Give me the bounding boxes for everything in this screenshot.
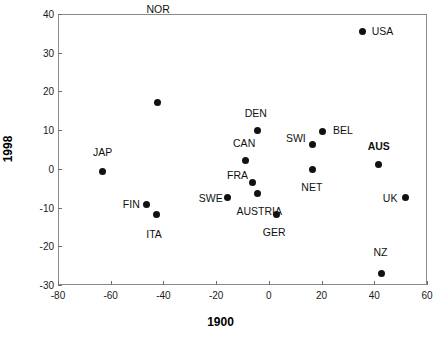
y-tick-mark xyxy=(58,130,62,131)
x-tick-label: -80 xyxy=(51,290,65,301)
x-tick-mark xyxy=(322,281,323,285)
data-point[interactable] xyxy=(402,194,409,201)
data-point[interactable] xyxy=(242,157,249,164)
data-point-label: NZ xyxy=(373,246,387,257)
y-tick-label: 0 xyxy=(24,163,54,174)
data-point-label: USA xyxy=(372,26,394,37)
x-tick-label: 0 xyxy=(266,290,272,301)
x-tick-mark xyxy=(58,281,59,285)
y-tick-mark xyxy=(58,53,62,54)
y-tick-label: 30 xyxy=(24,47,54,58)
y-tick-label: -30 xyxy=(24,280,54,291)
y-tick-label: -10 xyxy=(24,202,54,213)
y-tick-mark xyxy=(58,208,62,209)
y-tick-mark xyxy=(58,14,62,15)
data-point-label: CAN xyxy=(233,137,255,148)
data-point-label: AUS xyxy=(368,141,390,152)
y-tick-mark xyxy=(58,91,62,92)
data-point[interactable] xyxy=(254,127,261,134)
data-point[interactable] xyxy=(273,211,280,218)
data-point-label: DEN xyxy=(245,108,267,119)
y-tick-mark xyxy=(58,169,62,170)
scatter-chart: -30-20-10010203040-80-60-40-200204060 US… xyxy=(0,0,441,341)
y-tick-label: 20 xyxy=(24,86,54,97)
data-point-label: ITA xyxy=(146,229,162,240)
x-tick-mark xyxy=(216,281,217,285)
x-tick-mark xyxy=(427,281,428,285)
y-axis-title: 1998 xyxy=(1,119,15,179)
data-point-label: UK xyxy=(383,192,398,203)
y-tick-mark xyxy=(58,246,62,247)
y-tick-label: 10 xyxy=(24,125,54,136)
x-tick-label: -60 xyxy=(103,290,117,301)
data-point[interactable] xyxy=(143,201,150,208)
y-tick-label: -20 xyxy=(24,241,54,252)
data-point-label: NOR xyxy=(146,4,169,15)
data-point-label: NET xyxy=(301,182,322,193)
data-point-label: FIN xyxy=(123,199,140,210)
x-tick-label: 40 xyxy=(369,290,380,301)
data-point-label: BEL xyxy=(333,124,353,135)
data-point[interactable] xyxy=(99,168,106,175)
y-tick-label: 40 xyxy=(24,9,54,20)
data-point[interactable] xyxy=(378,270,385,277)
data-point-label: SWE xyxy=(199,192,223,203)
x-tick-label: -40 xyxy=(156,290,170,301)
x-tick-mark xyxy=(374,281,375,285)
x-tick-mark xyxy=(269,281,270,285)
data-point[interactable] xyxy=(154,99,161,106)
data-point-label: SWI xyxy=(286,133,306,144)
data-point[interactable] xyxy=(254,190,261,197)
x-tick-mark xyxy=(111,281,112,285)
x-axis-title: 1900 xyxy=(0,315,441,329)
x-tick-label: 20 xyxy=(316,290,327,301)
data-point-label: GER xyxy=(263,227,286,238)
data-point-label: FRA xyxy=(227,170,248,181)
x-tick-label: -20 xyxy=(209,290,223,301)
x-tick-mark xyxy=(163,281,164,285)
data-point-label: JAP xyxy=(93,146,112,157)
data-point[interactable] xyxy=(359,28,366,35)
x-tick-label: 60 xyxy=(421,290,432,301)
y-tick-mark xyxy=(58,285,62,286)
data-point[interactable] xyxy=(153,211,160,218)
